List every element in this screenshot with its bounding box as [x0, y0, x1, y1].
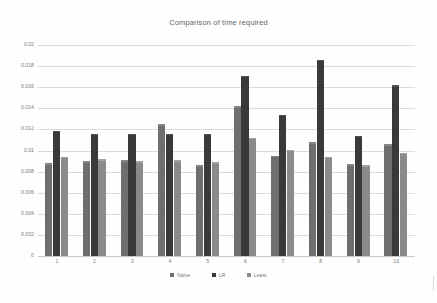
bar-lr-5: [204, 135, 211, 256]
bar-body: [166, 135, 173, 256]
legend-item-naive[interactable]: Naive: [170, 272, 190, 278]
bar-naive-7: [271, 157, 278, 256]
legend-swatch-icon: [247, 273, 251, 277]
bar-top-cap: [249, 138, 256, 140]
bar-lr-2: [91, 135, 98, 256]
y-axis: 00.0020.0040.0060.0080.010.0120.0140.016…: [0, 45, 34, 256]
chart-legend: NaiveLRLeast: [0, 272, 437, 278]
bar-body: [128, 135, 135, 256]
y-axis-tick-label: 0.014: [2, 105, 34, 110]
y-axis-tick-label: 0.016: [2, 84, 34, 89]
bar-body: [241, 77, 248, 256]
gridline: [38, 256, 415, 257]
bar-body: [158, 125, 165, 256]
x-axis-tick-label: 10: [393, 258, 399, 264]
bar-body: [355, 137, 362, 256]
y-axis-tick-label: 0.002: [2, 232, 34, 237]
y-axis-tick-label: 0: [2, 253, 34, 258]
bar-top-cap: [166, 134, 173, 136]
bar-group: [121, 45, 144, 256]
bar-body: [325, 158, 332, 256]
bar-body: [136, 162, 143, 256]
bar-least-1: [61, 158, 68, 256]
bar-naive-6: [234, 107, 241, 256]
bar-naive-8: [309, 143, 316, 256]
bar-body: [91, 135, 98, 256]
bar-body: [317, 61, 324, 256]
bar-lr-8: [317, 61, 324, 256]
bar-body: [309, 143, 316, 256]
bar-lr-10: [392, 86, 399, 256]
x-axis-tick-label: 2: [93, 258, 96, 264]
x-axis-tick-label: 7: [282, 258, 285, 264]
bar-top-cap: [317, 60, 324, 62]
legend-swatch-icon: [170, 273, 174, 277]
bar-top-cap: [196, 165, 203, 167]
bar-least-5: [212, 163, 219, 256]
bar-top-cap: [212, 162, 219, 164]
bar-naive-4: [158, 125, 165, 256]
legend-item-lr[interactable]: LR: [212, 272, 225, 278]
bar-body: [174, 161, 181, 256]
bar-group: [271, 45, 294, 256]
bar-top-cap: [128, 134, 135, 136]
bar-group: [384, 45, 407, 256]
bar-body: [287, 151, 294, 257]
bar-top-cap: [158, 124, 165, 126]
bar-lr-4: [166, 135, 173, 256]
bar-least-3: [136, 162, 143, 256]
bar-body: [362, 166, 369, 256]
bar-least-2: [98, 160, 105, 256]
bar-top-cap: [174, 160, 181, 162]
bar-top-cap: [325, 157, 332, 159]
bar-top-cap: [234, 106, 241, 108]
bar-top-cap: [53, 131, 60, 133]
legend-label: LR: [219, 272, 226, 278]
bar-body: [53, 132, 60, 256]
bar-top-cap: [45, 163, 52, 165]
bar-top-cap: [384, 144, 391, 146]
bar-body: [212, 163, 219, 256]
bar-top-cap: [241, 76, 248, 78]
bar-top-cap: [83, 161, 90, 163]
bar-naive-2: [83, 162, 90, 256]
legend-swatch-icon: [212, 273, 216, 277]
bar-body: [347, 165, 354, 256]
bar-least-8: [325, 158, 332, 256]
bar-body: [45, 164, 52, 256]
y-axis-tick-label: 0.006: [2, 190, 34, 195]
bar-top-cap: [98, 159, 105, 161]
bar-top-cap: [204, 134, 211, 136]
bar-body: [196, 166, 203, 256]
bar-body: [83, 162, 90, 256]
bar-naive-9: [347, 165, 354, 256]
legend-label: Naive: [177, 272, 190, 278]
y-axis-tick-label: 0.008: [2, 169, 34, 174]
bar-top-cap: [136, 161, 143, 163]
bar-least-4: [174, 161, 181, 256]
bar-lr-3: [128, 135, 135, 256]
x-axis-tick-label: 4: [168, 258, 171, 264]
bar-body: [384, 145, 391, 256]
bar-naive-1: [45, 164, 52, 256]
bar-top-cap: [392, 85, 399, 87]
bar-body: [98, 160, 105, 256]
y-axis-tick-label: 0.004: [2, 211, 34, 216]
bar-body: [400, 154, 407, 256]
legend-item-least[interactable]: Least: [247, 272, 266, 278]
bar-body: [61, 158, 68, 256]
bar-top-cap: [355, 136, 362, 138]
scan-edge-artifact: [433, 276, 434, 290]
bar-naive-10: [384, 145, 391, 256]
bar-top-cap: [287, 150, 294, 152]
bar-body: [234, 107, 241, 256]
bar-least-10: [400, 154, 407, 256]
y-axis-tick-label: 0.012: [2, 126, 34, 131]
bar-body: [121, 161, 128, 256]
bar-least-9: [362, 166, 369, 256]
bar-body: [392, 86, 399, 256]
bar-lr-6: [241, 77, 248, 256]
bar-top-cap: [400, 153, 407, 155]
x-axis-tick-label: 5: [206, 258, 209, 264]
y-axis-tick-label: 0.018: [2, 63, 34, 68]
